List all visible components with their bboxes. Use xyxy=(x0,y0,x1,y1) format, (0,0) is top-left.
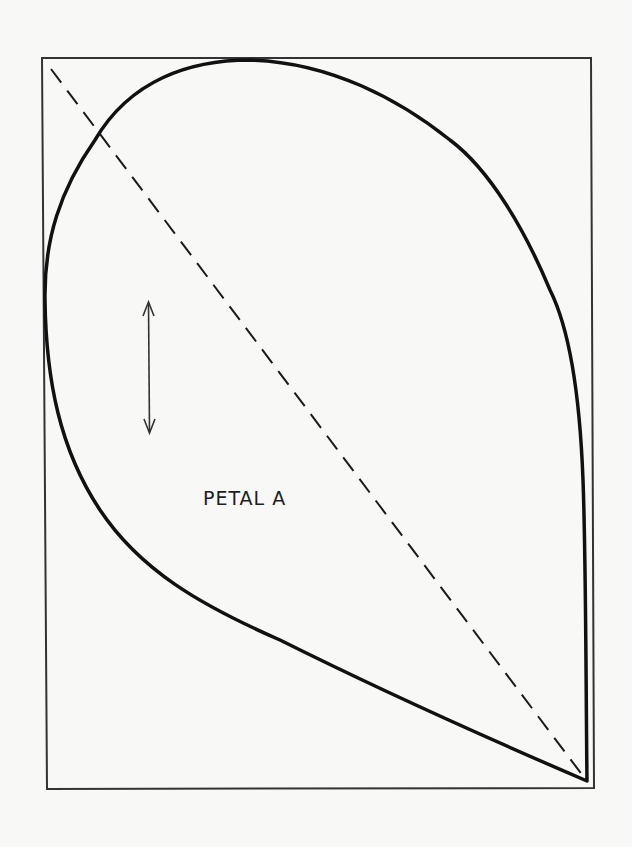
dashed-diagonal-line xyxy=(51,69,586,780)
pattern-canvas: PETAL A xyxy=(0,0,632,847)
grainline-arrow-icon xyxy=(143,302,155,433)
pattern-drawing xyxy=(0,0,632,847)
piece-label: PETAL A xyxy=(203,489,286,508)
